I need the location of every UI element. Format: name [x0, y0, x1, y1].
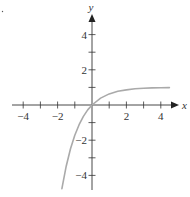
x-tick-label: 2: [124, 110, 130, 122]
y-tick-label: 4: [82, 29, 88, 41]
x-tick-label: −4: [17, 110, 29, 122]
y-tick-label: −2: [75, 134, 87, 146]
x-tick-label: 4: [158, 110, 164, 122]
y-tick-label: −4: [75, 169, 87, 181]
y-axis-label: y: [88, 1, 94, 13]
x-tick-label: −2: [52, 110, 64, 122]
corner-dot: [2, 11, 3, 12]
x-axis-arrow-icon: [171, 102, 179, 109]
x-axis-label: x: [181, 99, 187, 111]
y-axis-arrow-icon: [89, 14, 96, 22]
y-tick-label: 2: [82, 64, 88, 76]
chart: x y −4 −2 2 4 4 2 −2 −4: [0, 0, 190, 197]
